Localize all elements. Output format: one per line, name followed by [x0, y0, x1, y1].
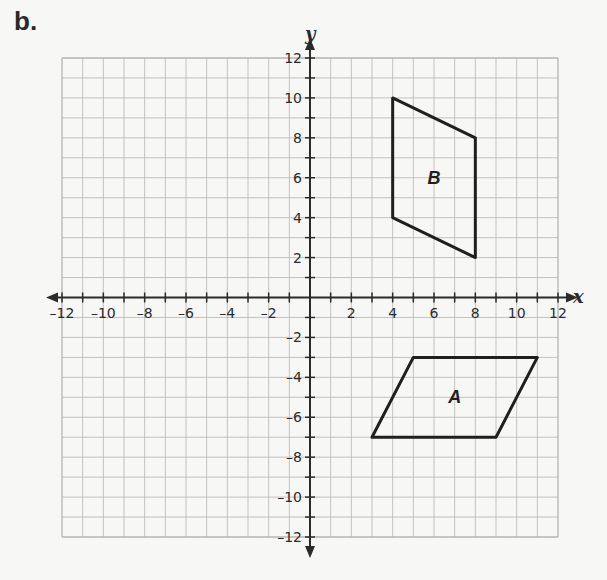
y-tick-label: –10 [277, 489, 302, 505]
coordinate-plane: –12–10–8–6–4–22468101212108642–2–4–6–8–1… [0, 0, 607, 580]
x-tick-label: 4 [388, 305, 397, 321]
x-tick-label: 12 [549, 305, 567, 321]
x-tick-label: 6 [430, 305, 439, 321]
y-axis-label: y [304, 23, 317, 44]
y-tick-label: –4 [286, 369, 302, 385]
shape-label-a: A [447, 387, 461, 407]
x-tick-label: –8 [137, 305, 153, 321]
x-tick-label: –2 [261, 305, 277, 321]
y-tick-label: –6 [286, 409, 302, 425]
x-axis-arrow-left-icon [46, 293, 58, 303]
y-tick-label: –2 [286, 329, 302, 345]
y-tick-label: –8 [286, 449, 302, 465]
y-tick-label: 2 [293, 250, 302, 266]
x-tick-label: 10 [508, 305, 526, 321]
x-axis-label: x [572, 286, 584, 307]
axes [46, 38, 578, 558]
y-tick-label: 10 [284, 90, 302, 106]
x-tick-label: –12 [50, 305, 75, 321]
shape-label-b: B [428, 168, 441, 188]
y-tick-label: –12 [277, 529, 302, 545]
y-axis-arrow-down-icon [305, 546, 315, 558]
y-tick-label: 4 [293, 210, 302, 226]
x-tick-label: 8 [471, 305, 480, 321]
y-tick-label: 8 [293, 130, 302, 146]
x-tick-label: –4 [219, 305, 235, 321]
y-tick-label: 6 [293, 170, 302, 186]
x-tick-label: –10 [91, 305, 116, 321]
x-tick-label: 2 [347, 305, 356, 321]
y-tick-label: 12 [284, 50, 302, 66]
x-tick-label: –6 [178, 305, 194, 321]
